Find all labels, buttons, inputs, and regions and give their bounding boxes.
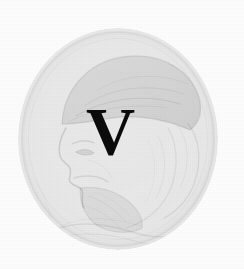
scanned-page: V [0, 0, 244, 269]
drop-cap-letter: V [86, 96, 134, 166]
